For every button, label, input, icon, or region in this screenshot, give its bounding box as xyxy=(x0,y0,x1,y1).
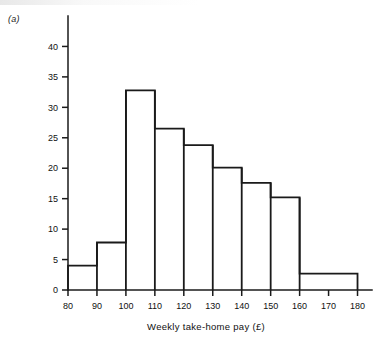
y-tick-label: 10 xyxy=(48,224,58,234)
y-tick-label: 20 xyxy=(48,163,58,173)
x-axis-title: Weekly take-home pay (£) xyxy=(147,321,265,332)
y-tick-label: 40 xyxy=(48,42,58,52)
x-tick-label: 150 xyxy=(263,301,278,311)
y-tick-label: 15 xyxy=(48,194,58,204)
histogram-plot: 0510152025303540 80901001101201301401501… xyxy=(0,0,386,345)
x-tick-label: 80 xyxy=(63,301,73,311)
panel-label: (a) xyxy=(8,14,20,24)
x-tick-label: 180 xyxy=(350,301,365,311)
x-tick-label: 100 xyxy=(118,301,133,311)
scan-artifact xyxy=(0,0,210,5)
y-tick-label: 0 xyxy=(53,285,58,295)
y-tick-label: 35 xyxy=(48,72,58,82)
x-tick-label: 110 xyxy=(148,301,162,311)
y-tick-label: 5 xyxy=(53,255,58,265)
y-tick-label: 25 xyxy=(48,133,58,143)
x-tick-label: 90 xyxy=(92,301,102,311)
x-tick-label: 160 xyxy=(292,301,307,311)
y-tick-label: 30 xyxy=(48,103,58,113)
x-axis-ticks: 8090100110120130140150160170180 xyxy=(63,290,365,311)
x-tick-label: 140 xyxy=(234,301,249,311)
x-tick-label: 130 xyxy=(205,301,220,311)
y-axis-ticks: 0510152025303540 xyxy=(48,42,68,296)
axes xyxy=(68,16,372,290)
x-tick-label: 120 xyxy=(176,301,191,311)
x-tick-label: 170 xyxy=(321,301,336,311)
histogram-bars xyxy=(68,90,358,290)
histogram-figure: (a) 0510152025303540 8090100110120130140… xyxy=(0,0,386,345)
